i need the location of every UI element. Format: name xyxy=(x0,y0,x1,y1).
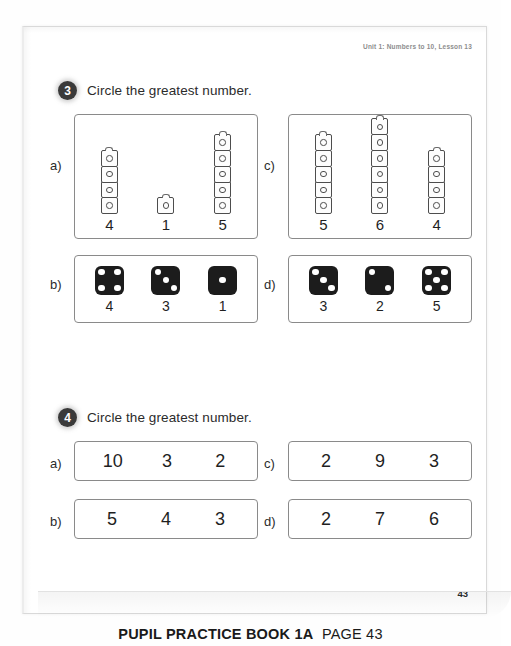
answer-panel-3b[interactable]: 4 3 xyxy=(74,255,258,323)
part-row: b) 5 4 3 d) 2 7 6 xyxy=(50,499,472,539)
die-icon-3 xyxy=(309,266,338,295)
tower-group[interactable]: 1 xyxy=(157,115,174,238)
question-3-parts: a) 4 xyxy=(24,114,486,323)
tower-value[interactable]: 1 xyxy=(162,217,170,238)
part-3a: a) 4 xyxy=(50,114,258,239)
die-group[interactable]: 3 xyxy=(309,266,338,313)
question-3-prompt: Circle the greatest number. xyxy=(87,83,252,98)
part-3c: c) 5 xyxy=(264,114,472,239)
question-3-header: 3 Circle the greatest number. xyxy=(24,81,486,100)
part-label-3d: d) xyxy=(264,255,281,292)
cube-tower xyxy=(371,120,388,214)
number-option[interactable]: 2 xyxy=(211,452,229,470)
cube-icon xyxy=(315,166,332,183)
die-icon-2 xyxy=(365,266,394,295)
tower-group[interactable]: 5 xyxy=(315,115,332,238)
die-group[interactable]: 5 xyxy=(422,266,451,313)
die-group[interactable]: 1 xyxy=(208,266,237,313)
number-option[interactable]: 4 xyxy=(157,510,175,528)
die-icon-4 xyxy=(95,266,124,295)
question-4-number-badge: 4 xyxy=(58,408,77,427)
part-row: b) 4 xyxy=(50,255,472,323)
question-4: 4 Circle the greatest number. a) 10 3 2 … xyxy=(24,408,486,539)
book-title: PUPIL PRACTICE BOOK 1A xyxy=(118,626,313,642)
part-label-4a: a) xyxy=(50,441,67,471)
page-sheet: Unit 1: Numbers to 10, Lesson 13 3 Circl… xyxy=(22,26,487,614)
part-label-4d: d) xyxy=(264,499,281,529)
number-option[interactable]: 9 xyxy=(371,452,389,470)
page-folio: 43 xyxy=(457,588,468,599)
cube-icon xyxy=(428,181,445,198)
answer-panel-3d[interactable]: 3 2 xyxy=(288,255,472,323)
book-page-ref: PAGE 43 xyxy=(322,626,383,642)
cube-icon xyxy=(371,166,388,183)
die-value[interactable]: 1 xyxy=(219,299,227,313)
cube-icon xyxy=(315,150,332,167)
die-icon-3 xyxy=(151,266,180,295)
die-group[interactable]: 3 xyxy=(151,266,180,313)
part-row: a) 4 xyxy=(50,114,472,239)
tower-group[interactable]: 6 xyxy=(371,115,388,238)
number-option[interactable]: 6 xyxy=(425,510,443,528)
part-4d: d) 2 7 6 xyxy=(264,499,472,539)
die-group[interactable]: 4 xyxy=(95,266,124,313)
question-3: 3 Circle the greatest number. a) xyxy=(24,81,486,323)
answer-panel-4c[interactable]: 2 9 3 xyxy=(288,441,472,481)
cube-icon xyxy=(371,181,388,198)
part-label-4c: c) xyxy=(264,441,281,471)
cube-icon xyxy=(315,197,332,214)
number-option[interactable]: 3 xyxy=(425,452,443,470)
die-icon-5 xyxy=(422,266,451,295)
answer-panel-3c[interactable]: 5 6 xyxy=(288,114,472,239)
book-footer: PUPIL PRACTICE BOOK 1A PAGE 43 xyxy=(0,626,501,642)
number-option[interactable]: 3 xyxy=(211,510,229,528)
running-head: Unit 1: Numbers to 10, Lesson 13 xyxy=(363,43,472,50)
cube-tower xyxy=(315,135,332,214)
cube-icon xyxy=(214,181,231,198)
cube-icon xyxy=(214,197,231,214)
part-label-3b: b) xyxy=(50,255,67,292)
die-group[interactable]: 2 xyxy=(365,266,394,313)
die-icon-1 xyxy=(208,266,237,295)
cube-icon xyxy=(214,166,231,183)
number-option[interactable]: 10 xyxy=(103,452,123,470)
answer-panel-4a[interactable]: 10 3 2 xyxy=(74,441,258,481)
cube-tower xyxy=(214,135,231,214)
number-option[interactable]: 2 xyxy=(317,510,335,528)
answer-panel-4d[interactable]: 2 7 6 xyxy=(288,499,472,539)
number-option[interactable]: 5 xyxy=(103,510,121,528)
tower-group[interactable]: 4 xyxy=(428,115,445,238)
tower-value[interactable]: 5 xyxy=(218,217,226,238)
number-option[interactable]: 7 xyxy=(371,510,389,528)
cube-tower xyxy=(157,198,174,214)
tower-value[interactable]: 5 xyxy=(319,217,327,238)
answer-panel-3a[interactable]: 4 1 xyxy=(74,114,258,239)
cube-icon xyxy=(214,134,231,151)
cube-icon xyxy=(101,197,118,214)
die-value[interactable]: 3 xyxy=(162,299,170,313)
part-4c: c) 2 9 3 xyxy=(264,441,472,481)
cube-icon xyxy=(101,150,118,167)
die-value[interactable]: 5 xyxy=(433,299,441,313)
cube-icon xyxy=(371,118,388,135)
tower-value[interactable]: 4 xyxy=(432,217,440,238)
tower-value[interactable]: 4 xyxy=(105,217,113,238)
part-4a: a) 10 3 2 xyxy=(50,441,258,481)
cube-icon xyxy=(101,166,118,183)
tower-group[interactable]: 5 xyxy=(214,115,231,238)
question-4-header: 4 Circle the greatest number. xyxy=(24,408,486,427)
cube-tower xyxy=(101,151,118,214)
part-3b: b) 4 xyxy=(50,255,258,323)
die-value[interactable]: 3 xyxy=(319,299,327,313)
part-3d: d) 3 xyxy=(264,255,472,323)
tower-value[interactable]: 6 xyxy=(376,217,384,238)
answer-panel-4b[interactable]: 5 4 3 xyxy=(74,499,258,539)
cube-icon xyxy=(101,181,118,198)
cube-icon xyxy=(371,150,388,167)
number-option[interactable]: 3 xyxy=(158,452,176,470)
number-option[interactable]: 2 xyxy=(317,452,335,470)
tower-group[interactable]: 4 xyxy=(101,115,118,238)
die-value[interactable]: 4 xyxy=(105,299,113,313)
die-value[interactable]: 2 xyxy=(376,299,384,313)
